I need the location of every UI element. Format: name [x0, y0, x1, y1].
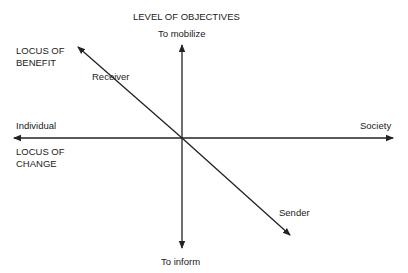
society-label: Society	[360, 120, 391, 132]
locus-of-benefit-line2: BENEFIT	[16, 57, 65, 69]
locus-of-change-line1: LOCUS OF	[16, 146, 65, 158]
diagonal-receiver-arrow	[78, 47, 182, 138]
individual-label: Individual	[16, 120, 56, 132]
locus-of-benefit-label: LOCUS OF BENEFIT	[16, 45, 65, 69]
sender-label: Sender	[279, 207, 310, 219]
axes-diagram	[0, 0, 408, 273]
locus-of-benefit-line1: LOCUS OF	[16, 45, 65, 57]
locus-of-change-label: LOCUS OF CHANGE	[16, 146, 65, 170]
level-of-objectives-title: LEVEL OF OBJECTIVES	[133, 11, 240, 23]
to-inform-label: To inform	[161, 256, 200, 268]
receiver-label: Receiver	[92, 71, 130, 83]
locus-of-change-line2: CHANGE	[16, 158, 65, 170]
to-mobilize-label: To mobilize	[158, 28, 206, 40]
diagonal-sender-arrow	[182, 138, 290, 235]
